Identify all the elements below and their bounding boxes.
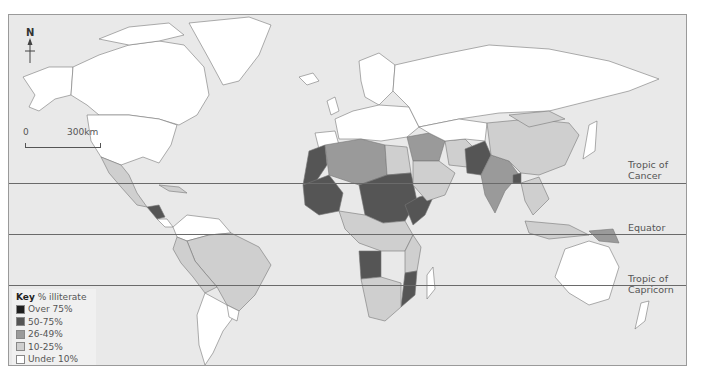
- mexico: [101, 157, 147, 207]
- madagascar: [427, 267, 435, 299]
- legend-swatch: [16, 305, 25, 314]
- legend-swatch: [16, 355, 25, 364]
- equator-line: [9, 234, 686, 235]
- new-zealand: [635, 301, 649, 329]
- scandinavia: [359, 53, 395, 105]
- tropic-of-capricorn-label: Tropic of Capricorn: [628, 273, 680, 295]
- tropic-of-capricorn-line: [9, 285, 686, 286]
- scale-bar-line: [25, 143, 101, 148]
- bangladesh: [513, 173, 521, 183]
- japan: [583, 121, 597, 159]
- angola: [359, 251, 381, 279]
- mozambique: [401, 271, 417, 307]
- iceland: [299, 73, 319, 85]
- egypt: [385, 145, 411, 175]
- legend-title: Key % illiterate: [16, 291, 92, 303]
- papua: [589, 229, 619, 243]
- world-map: Tropic of Cancer Equator Tropic of Capri…: [8, 14, 687, 366]
- scale-end: 300km: [67, 127, 98, 137]
- caribbean: [159, 185, 187, 193]
- europe-mainland: [335, 105, 419, 141]
- legend-item: 26-49%: [16, 328, 92, 341]
- equator-label: Equator: [628, 222, 680, 233]
- tropic-of-cancer-label: Tropic of Cancer: [628, 159, 680, 181]
- central-america-south: [157, 219, 173, 227]
- legend-swatch: [16, 317, 25, 326]
- canada: [71, 41, 209, 125]
- central-america: [147, 205, 165, 219]
- legend-swatch: [16, 342, 25, 351]
- arabia: [413, 161, 455, 201]
- scale-bar: 0 300km: [23, 127, 103, 157]
- southern-africa: [361, 277, 401, 321]
- north-arrow-icon: [23, 27, 43, 75]
- uk: [327, 97, 339, 115]
- map-canvas: [9, 15, 687, 366]
- legend-item: Over 75%: [16, 303, 92, 316]
- legend-item: 10-25%: [16, 341, 92, 354]
- australia: [555, 241, 619, 305]
- legend-swatch: [16, 330, 25, 339]
- scale-start: 0: [23, 127, 29, 137]
- legend-item: Under 10%: [16, 353, 92, 366]
- legend: Key % illiterate Over 75% 50-75% 26-49% …: [12, 289, 96, 365]
- indonesia: [525, 221, 589, 239]
- north-arrow: N: [23, 27, 43, 75]
- legend-item: 50-75%: [16, 316, 92, 329]
- tropic-of-cancer-line: [9, 183, 686, 184]
- arctic-islands: [99, 23, 184, 45]
